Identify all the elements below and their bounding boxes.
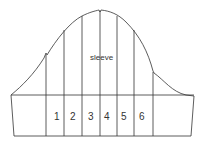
section-label-5: 5 [121, 111, 127, 122]
sleeve-label: sleeve [90, 53, 114, 62]
section-label-6: 6 [139, 111, 145, 122]
section-label-1: 1 [54, 111, 60, 122]
right-seam [191, 96, 194, 136]
section-label-2: 2 [70, 111, 76, 122]
section-label-4: 4 [104, 111, 110, 122]
section-label-3: 3 [88, 111, 94, 122]
sleeve-pattern-diagram: sleeve 1 2 3 4 5 6 [0, 0, 204, 144]
left-seam [11, 95, 14, 136]
